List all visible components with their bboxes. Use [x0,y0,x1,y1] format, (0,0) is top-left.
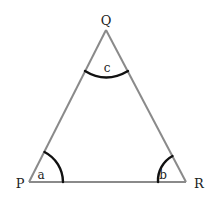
angle-label-a: a [37,168,44,182]
angle-arc-a [45,152,64,182]
angle-arcs [45,71,173,182]
triangle-diagram: Q P R c a b [0,0,211,201]
angle-label-c: c [104,61,111,75]
vertex-label-q: Q [101,13,112,28]
vertex-label-p: P [16,176,25,191]
side-pq [29,30,106,182]
angle-label-b: b [159,168,167,182]
vertex-label-r: R [194,176,205,191]
side-qr [106,30,186,182]
